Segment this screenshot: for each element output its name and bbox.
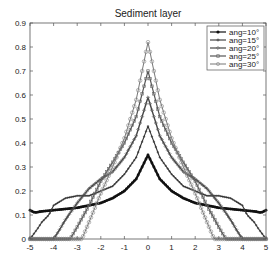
y-tick-label: 0.9 <box>15 19 27 28</box>
x-tick-label: -2 <box>97 243 105 252</box>
line-chart: Sediment layer -5-4-3-2-101234500.10.20.… <box>0 0 279 264</box>
x-tick-label: 0 <box>146 243 151 252</box>
x-tick-label: 1 <box>169 243 174 252</box>
y-tick-label: 0.5 <box>15 115 27 124</box>
y-tick-label: 0.6 <box>15 91 27 100</box>
x-tick-label: 4 <box>240 243 245 252</box>
x-tick-label: 3 <box>217 243 222 252</box>
y-tick-label: 0.3 <box>15 163 27 172</box>
x-tick-label: 5 <box>264 243 269 252</box>
x-tick-label: -4 <box>50 243 58 252</box>
plot-area <box>28 40 268 240</box>
y-tick-label: 0.7 <box>15 67 27 76</box>
y-tick-label: 0 <box>22 235 27 244</box>
y-tick-label: 0.1 <box>15 211 27 220</box>
chart-title: Sediment layer <box>115 8 182 19</box>
legend: ang=10°ang=15°ang=20°ang=25°ang=30° <box>207 26 264 70</box>
x-tick-label: 2 <box>193 243 198 252</box>
series-ang-10- <box>29 154 268 214</box>
y-tick-label: 0.4 <box>15 139 27 148</box>
y-tick-label: 0.8 <box>15 43 27 52</box>
series-ang-20- <box>28 96 267 241</box>
legend-label: ang=30° <box>229 60 259 69</box>
y-tick-label: 0.2 <box>15 187 27 196</box>
x-tick-label: -1 <box>121 243 129 252</box>
x-tick-label: -5 <box>26 243 34 252</box>
x-tick-label: -3 <box>74 243 82 252</box>
chart-container: Sediment layer -5-4-3-2-101234500.10.20.… <box>0 0 279 264</box>
